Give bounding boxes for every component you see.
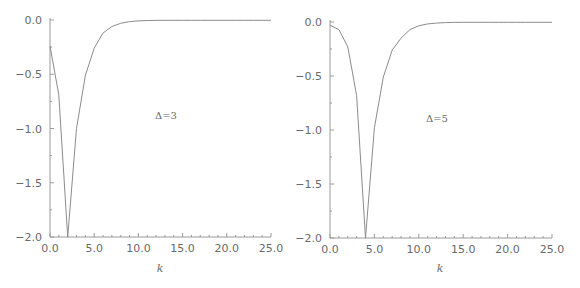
chart-panel-delta-5: 0.0−0.5−1.0−1.5−2.00.05.010.015.020.025.… <box>295 16 564 275</box>
y-tick-label: −1.0 <box>15 123 42 136</box>
figure: 0.0−0.5−1.0−1.5−2.00.05.010.015.020.025.… <box>0 0 580 288</box>
x-tick-label: 10.0 <box>126 242 151 255</box>
data-line <box>330 22 552 238</box>
y-tick-label: −1.0 <box>295 124 322 137</box>
y-tick-label: −2.0 <box>295 232 322 245</box>
y-tick-label: −0.5 <box>15 68 42 81</box>
x-tick-label: 20.0 <box>495 243 520 256</box>
x-axis-title: k <box>437 262 444 275</box>
x-tick-label: 0.0 <box>321 243 339 256</box>
chart-panel-delta-3: 0.0−0.5−1.0−1.5−2.00.05.010.015.020.025.… <box>15 14 283 275</box>
x-axis-title: k <box>157 262 164 275</box>
x-tick-label: 10.0 <box>407 243 432 256</box>
y-tick-label: −1.5 <box>295 178 322 191</box>
y-tick-label: 0.0 <box>305 16 323 29</box>
delta-annotation: Δ=3 <box>155 110 177 121</box>
delta-annotation: Δ=5 <box>426 113 448 124</box>
y-tick-label: −1.5 <box>15 177 42 190</box>
x-tick-label: 15.0 <box>170 242 195 255</box>
x-tick-label: 25.0 <box>540 243 565 256</box>
y-tick-label: −0.5 <box>295 70 322 83</box>
y-tick-label: −2.0 <box>15 231 42 244</box>
x-tick-label: 5.0 <box>85 242 103 255</box>
x-tick-label: 0.0 <box>41 242 59 255</box>
x-tick-label: 20.0 <box>215 242 240 255</box>
data-line <box>50 20 271 237</box>
x-tick-label: 15.0 <box>451 243 476 256</box>
x-tick-label: 25.0 <box>259 242 284 255</box>
y-tick-label: 0.0 <box>25 14 43 27</box>
x-tick-label: 5.0 <box>366 243 384 256</box>
